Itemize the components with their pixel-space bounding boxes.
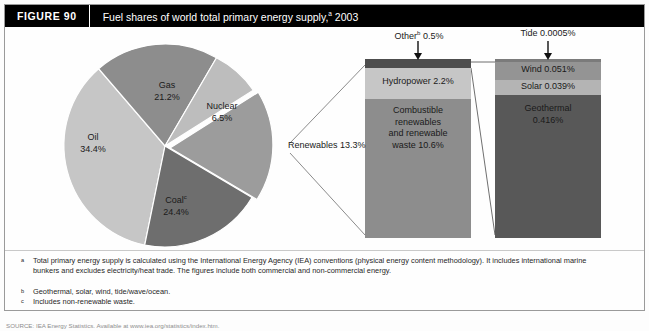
figure-number: FIGURE 90: [5, 10, 89, 22]
footnote-b: b Geothermal, solar, wind, tide/wave/oce…: [21, 287, 621, 297]
figure-title-year: 2003: [332, 10, 358, 22]
footnote-separator: [5, 250, 644, 251]
footnote-a-text: Total primary energy supply is calculate…: [33, 256, 593, 276]
figure-title: Fuel shares of world total primary energ…: [90, 10, 359, 23]
callout-arrow-tide: [544, 41, 552, 60]
footnote-c: c Includes non-renewable waste.: [21, 297, 621, 307]
figure-header: FIGURE 90 Fuel shares of world total pri…: [5, 5, 644, 27]
pie-label-coal: Coalc24.4%: [141, 192, 211, 218]
figure-container: FIGURE 90 Fuel shares of world total pri…: [0, 0, 649, 331]
connector-lines-other: [471, 62, 495, 235]
footnote-c-marker: c: [21, 296, 24, 306]
pie-label-renewables: Renewables 13.3%: [288, 140, 368, 152]
bar1-label-other-value: 0.5%: [423, 31, 444, 41]
bar2-label-geothermal: Geothermal 0.416%: [497, 103, 599, 126]
bar-segment-other: [365, 59, 471, 68]
footnote-b-text: Geothermal, solar, wind, tide/wave/ocean…: [33, 287, 593, 297]
footnote-c-text: Includes non-renewable waste.: [33, 297, 593, 307]
source-line: SOURCE: IEA Energy Statistics. Available…: [6, 322, 219, 329]
footnote-a-marker: a: [21, 255, 24, 265]
bar2-label-tide: Tide 0.0005%: [502, 28, 594, 40]
footnote-b-marker: b: [21, 286, 24, 296]
callout-arrow-other: [414, 41, 422, 60]
footnote-a: a Total primary energy supply is calcula…: [21, 256, 621, 276]
bar1-label-other: Otherb 0.5%: [373, 28, 465, 43]
bar1-label-other-marker: b: [417, 30, 420, 36]
pie-label-coal-value: 24.4%: [163, 207, 189, 217]
chart-canvas: Oil 34.4% Gas 21.2% Nuclear 6.5% Coalc24…: [5, 27, 644, 251]
bar1-label-hydropower: Hydropower 2.2%: [367, 76, 469, 88]
bar2-label-wind: Wind 0.051%: [497, 64, 599, 76]
pie-label-gas: Gas 21.2%: [135, 80, 199, 103]
pie-label-coal-marker: c: [184, 194, 187, 200]
footnotes: a Total primary energy supply is calcula…: [5, 252, 644, 310]
bar1-label-other-name: Other: [395, 31, 418, 41]
bar1-label-combustible: Combustible renewables and renewable was…: [367, 105, 469, 151]
pie-label-oil: Oil 34.4%: [61, 132, 125, 155]
pie-label-nuclear: Nuclear 6.5%: [191, 101, 253, 124]
bar2-label-solar: Solar 0.039%: [497, 81, 599, 93]
figure-title-text: Fuel shares of world total primary energ…: [103, 10, 329, 22]
pie-label-coal-name: Coal: [165, 195, 184, 205]
